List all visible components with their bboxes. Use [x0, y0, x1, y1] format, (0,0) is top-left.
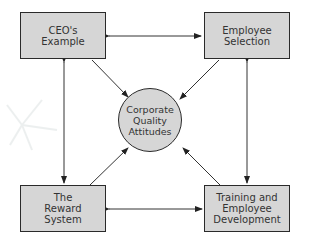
node-employee-selection: Employee Selection: [204, 12, 290, 59]
node-label: The Reward System: [44, 192, 81, 225]
edge-training-center: [183, 148, 220, 185]
node-label: Training and Employee Development: [213, 192, 280, 225]
node-ceo-example: CEO's Example: [20, 12, 106, 59]
node-training-development: Training and Employee Development: [204, 185, 290, 232]
node-reward-system: The Reward System: [20, 185, 106, 232]
node-label: Employee Selection: [222, 25, 272, 47]
center-corporate-quality-attitudes: Corporate Quality Attitudes: [118, 88, 182, 152]
edge-selection-center: [180, 60, 219, 99]
edge-reward-center: [90, 148, 128, 185]
center-label: Corporate Quality Attitudes: [126, 104, 174, 137]
node-label: CEO's Example: [41, 25, 84, 47]
edge-ceo-center: [92, 60, 128, 97]
